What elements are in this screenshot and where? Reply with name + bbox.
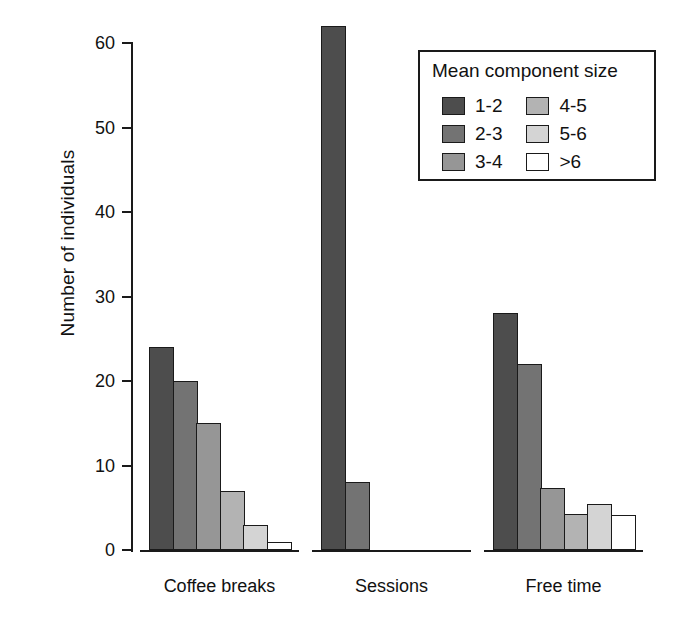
bar <box>196 423 221 550</box>
bar <box>611 515 636 550</box>
y-tick-label: 50 <box>75 117 115 138</box>
bar <box>564 514 589 550</box>
bar <box>267 542 292 550</box>
legend-label: 4-5 <box>559 95 586 117</box>
bar <box>220 491 245 550</box>
y-tick-mark <box>122 42 131 44</box>
bar <box>149 347 174 550</box>
legend-label: 1-2 <box>475 95 516 117</box>
y-tick-mark <box>122 465 131 467</box>
bar <box>493 313 518 550</box>
bar-chart: Number of individuals 0102030405060 Coff… <box>0 0 679 635</box>
legend-swatch <box>526 153 549 171</box>
legend: Mean component size 1-24-52-35-63-4>6 <box>418 50 656 181</box>
y-axis-title: Number of individuals <box>57 113 79 373</box>
legend-label: 2-3 <box>475 123 516 145</box>
legend-entries: 1-24-52-35-63-4>6 <box>442 92 587 176</box>
legend-label: >6 <box>559 151 586 173</box>
y-tick-mark <box>122 211 131 213</box>
y-tick-label: 20 <box>75 371 115 392</box>
legend-swatch <box>526 125 549 143</box>
y-tick-mark <box>122 549 131 551</box>
x-tick-label: Sessions <box>355 576 428 597</box>
y-tick-mark <box>122 127 131 129</box>
legend-title: Mean component size <box>432 60 618 82</box>
legend-label: 3-4 <box>475 151 516 173</box>
y-tick-label: 60 <box>75 33 115 54</box>
y-tick-label: 40 <box>75 202 115 223</box>
legend-swatch <box>526 97 549 115</box>
legend-swatch <box>442 125 465 143</box>
x-axis-segment <box>312 550 471 552</box>
x-tick-label: Free time <box>525 576 601 597</box>
x-tick-label: Coffee breaks <box>164 576 276 597</box>
y-axis-line <box>131 42 133 552</box>
bar <box>173 381 198 550</box>
legend-swatch <box>442 153 465 171</box>
y-tick-label: 10 <box>75 455 115 476</box>
x-axis-segment <box>484 550 643 552</box>
y-tick-label: 30 <box>75 286 115 307</box>
bar <box>321 26 346 550</box>
bar <box>540 488 565 550</box>
y-tick-label: 0 <box>75 540 115 561</box>
x-axis-segment <box>140 550 299 552</box>
bar <box>243 525 268 550</box>
bar <box>587 504 612 550</box>
y-tick-mark <box>122 380 131 382</box>
legend-label: 5-6 <box>559 123 586 145</box>
bar <box>345 482 370 550</box>
y-tick-mark <box>122 296 131 298</box>
legend-swatch <box>442 97 465 115</box>
bar <box>517 364 542 550</box>
